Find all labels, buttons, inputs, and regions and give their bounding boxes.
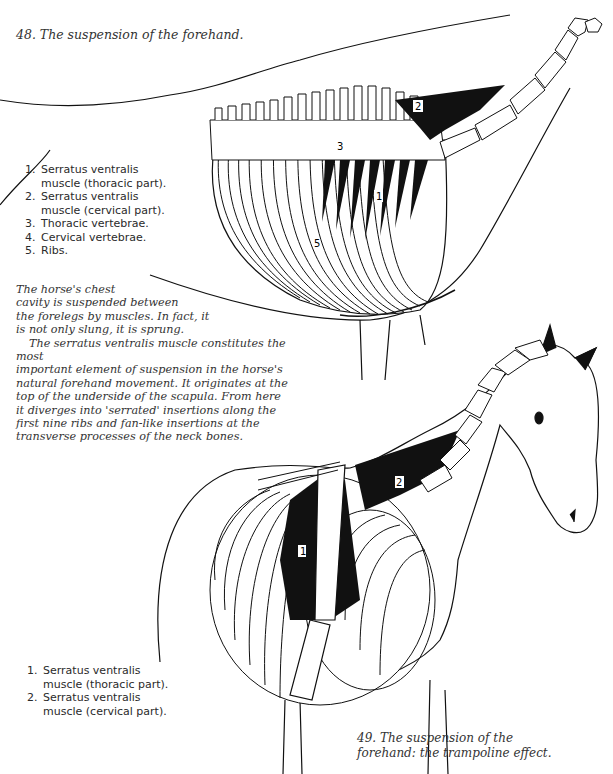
caption-line: 49. The suspension of the [357, 731, 513, 745]
text-line: it diverges into 'serrated' insertions a… [16, 404, 276, 417]
legend-text: Ribs. [41, 244, 68, 258]
text-line: is not only slung, it is sprung. [16, 323, 184, 336]
legend-text: Serratus ventralis [41, 190, 139, 203]
horse-eye [535, 412, 543, 424]
legend-text: Cervical vertebrae. [41, 231, 146, 245]
text-line: natural forehand movement. It originates… [16, 377, 288, 390]
horse-ear-right [575, 348, 596, 370]
legend-item: 1.Serratus ventralismuscle (thoracic par… [27, 664, 187, 691]
legend-text: muscle (thoracic part). [41, 177, 166, 190]
text-line: important element of suspension in the h… [16, 363, 283, 376]
diagram-label-4: 4 [491, 101, 497, 112]
figure-48-caption: 48. The suspension of the forehand. [16, 27, 244, 42]
thoracic-vertebrae [210, 86, 445, 160]
figure-48-legend: 1.Serratus ventralismuscle (thoracic par… [25, 163, 185, 258]
cervical-vertebrae [440, 18, 602, 158]
text-line: first nine ribs and fan-like insertions … [16, 417, 260, 430]
text-line: top of the underside of the scapula. Fro… [16, 390, 281, 403]
legend-text: muscle (cervical part). [41, 204, 165, 217]
legend-number: 1. [25, 163, 41, 190]
legend-text: muscle (cervical part). [43, 705, 167, 718]
legend-item: 2.Serratus ventralismuscle (cervical par… [27, 691, 187, 718]
legend-number: 5. [25, 244, 41, 258]
legend-number: 1. [27, 664, 43, 691]
legend-text: Serratus ventralis [43, 691, 141, 704]
text-line: cavity is suspended between [16, 296, 179, 309]
paragraph-2: The serratus ventralis muscle constitute… [16, 337, 316, 444]
cervical-vertebrae [420, 340, 548, 492]
legend-text: muscle (thoracic part). [43, 678, 168, 691]
figure-49-legend: 1.Serratus ventralismuscle (thoracic par… [27, 664, 187, 718]
foreleg-outline [360, 315, 425, 380]
text-line: The horse's chest [16, 283, 115, 296]
legend-number: 4. [25, 231, 41, 245]
legend-number: 3. [25, 217, 41, 231]
diagram-label-2: 2 [396, 477, 402, 488]
text-line: The serratus ventralis muscle constitute… [16, 337, 286, 363]
legend-item: 5.Ribs. [25, 244, 185, 258]
paragraph-1: The horse's chest cavity is suspended be… [16, 283, 316, 337]
text-line: transverse processes of the neck bones. [16, 430, 243, 443]
diagram-label-5: 5 [314, 238, 320, 249]
legend-text: Thoracic vertebrae. [41, 217, 149, 231]
diagram-label-3: 3 [337, 141, 343, 152]
diagram-label-2: 2 [415, 101, 421, 112]
caption-line: forehand: the trampoline effect. [357, 746, 552, 760]
legend-item: 1.Serratus ventralismuscle (thoracic par… [25, 163, 185, 190]
horse-nostril [570, 510, 575, 522]
legend-text: Serratus ventralis [43, 664, 141, 677]
diagram-label-1: 1 [300, 546, 306, 557]
legend-item: 3.Thoracic vertebrae. [25, 217, 185, 231]
diagram-label-1: 1 [376, 191, 382, 202]
legend-number: 2. [27, 691, 43, 718]
legend-item: 2.Serratus ventralismuscle (cervical par… [25, 190, 185, 217]
figure-49-caption: 49. The suspension of the forehand: the … [357, 731, 552, 761]
legend-text: Serratus ventralis [41, 163, 139, 176]
legend-number: 2. [25, 190, 41, 217]
body-text: The horse's chest cavity is suspended be… [16, 283, 316, 444]
text-line: the forelegs by muscles. In fact, it [16, 310, 209, 323]
legend-item: 4.Cervical vertebrae. [25, 231, 185, 245]
